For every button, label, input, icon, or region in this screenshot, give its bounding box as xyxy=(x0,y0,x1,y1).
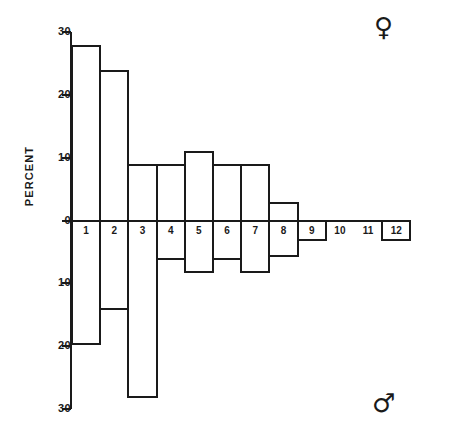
mars-symbol: ♂ xyxy=(372,390,395,416)
bar-category-label: 5 xyxy=(184,225,214,236)
bar-female[interactable] xyxy=(212,164,242,223)
y-axis-tick-mark xyxy=(62,282,71,284)
bar-category-label: 11 xyxy=(353,225,383,236)
bar-cell[interactable]: 11 xyxy=(353,32,383,409)
bar-cell[interactable]: 5 xyxy=(184,32,214,409)
y-axis-tick-mark xyxy=(62,220,71,222)
y-axis-tick-mark xyxy=(62,31,71,33)
bar-category-label: 7 xyxy=(240,225,270,236)
bar-cell[interactable]: 2 xyxy=(99,32,129,409)
bar-category-label: 3 xyxy=(127,225,157,236)
bar-cell[interactable]: 10 xyxy=(325,32,355,409)
bar-cell[interactable]: 8 xyxy=(268,32,298,409)
bar-category-label: 8 xyxy=(268,225,298,236)
bar-male[interactable] xyxy=(127,221,157,399)
y-axis-tick-mark xyxy=(62,408,71,410)
bar-cell[interactable]: 3 xyxy=(127,32,157,409)
bar-female[interactable] xyxy=(156,164,186,223)
bar-female[interactable] xyxy=(268,202,298,223)
plot-area: 123456789101112 xyxy=(71,32,441,409)
venus-symbol: ♀ xyxy=(374,14,393,40)
bar-cell[interactable]: 12 xyxy=(381,32,411,409)
bar-category-label: 6 xyxy=(212,225,242,236)
bar-category-label: 12 xyxy=(381,225,411,236)
bar-female[interactable] xyxy=(99,70,129,223)
bar-category-label: 9 xyxy=(297,225,327,236)
y-axis-tick-mark xyxy=(62,157,71,159)
percent-pyramid-chart: PERCENT 3020100102030 123456789101112 ♀ … xyxy=(0,0,456,441)
bar-category-label: 10 xyxy=(325,225,355,236)
bar-female[interactable] xyxy=(184,151,214,222)
bar-female[interactable] xyxy=(71,45,101,223)
bar-cell[interactable]: 9 xyxy=(297,32,327,409)
bar-female[interactable] xyxy=(127,164,157,223)
bar-cell[interactable]: 1 xyxy=(71,32,101,409)
bar-female[interactable] xyxy=(240,164,270,223)
y-axis-tick-mark xyxy=(62,94,71,96)
y-axis-tick-mark xyxy=(62,345,71,347)
bar-cell[interactable]: 7 xyxy=(240,32,270,409)
bar-cell[interactable]: 6 xyxy=(212,32,242,409)
y-axis-title: PERCENT xyxy=(23,128,35,224)
bar-category-label: 4 xyxy=(156,225,186,236)
bar-cell[interactable]: 4 xyxy=(156,32,186,409)
bar-category-label: 1 xyxy=(71,225,101,236)
bar-male[interactable] xyxy=(71,221,101,346)
bar-category-label: 2 xyxy=(99,225,129,236)
